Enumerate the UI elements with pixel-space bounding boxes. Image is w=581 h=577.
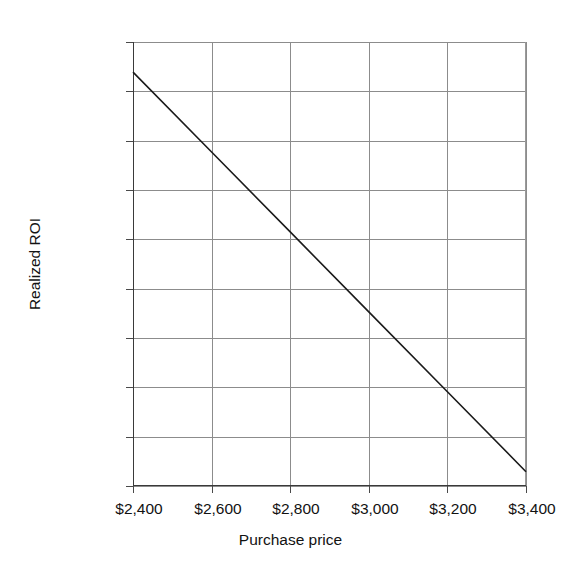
x-tick-label: $2,600 (173, 501, 263, 517)
x-tick-label: $3,400 (487, 501, 577, 517)
x-tick-label: $2,400 (94, 501, 184, 517)
x-tick-label: $3,000 (330, 501, 420, 517)
x-axis-title: Purchase price (0, 531, 581, 549)
x-axis-tick-labels: $2,400$2,600$2,800$3,000$3,200$3,400 (0, 0, 581, 577)
x-tick-label: $3,200 (408, 501, 498, 517)
roi-vs-purchase-price-chart: 0.0%20.0%40.0%60.0%80.0%100.0%120.0%140.… (0, 0, 581, 577)
x-tick-label: $2,800 (251, 501, 341, 517)
